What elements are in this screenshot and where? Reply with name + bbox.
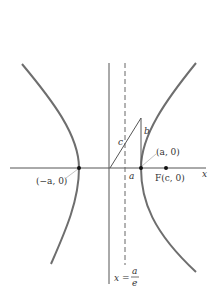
right-vertex-label: (a, 0) <box>156 147 180 157</box>
left-branch <box>22 64 79 264</box>
left-vertex-point <box>77 166 81 170</box>
directrix-numerator: a <box>132 266 137 276</box>
x-axis-label: x <box>202 169 207 179</box>
focus-label: F(c, 0) <box>155 173 185 183</box>
directrix-lhs: x = <box>114 273 129 283</box>
segment-a-label: a <box>129 171 134 181</box>
left-vertex-label: (−a, 0) <box>36 176 67 186</box>
focus-point <box>164 166 168 170</box>
directrix-denominator: e <box>132 278 137 288</box>
right-vertex-point <box>139 166 143 170</box>
side-b-label: b <box>144 126 150 136</box>
side-c-label: c <box>118 137 123 147</box>
leader-line-left <box>66 169 78 178</box>
hyperbola-diagram: x (−a, 0) (a, 0) F(c, 0) c b a x = a e <box>0 0 218 297</box>
leader-line <box>142 154 156 166</box>
